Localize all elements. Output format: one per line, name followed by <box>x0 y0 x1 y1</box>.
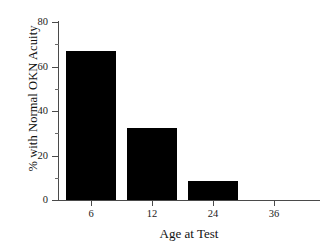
y-axis-tick-label: 0 <box>22 195 48 206</box>
x-axis-line <box>58 200 320 201</box>
y-axis-tick-major <box>52 156 59 157</box>
y-axis-tick-label: 20 <box>22 151 48 162</box>
x-axis-tick-label: 6 <box>71 209 111 220</box>
x-axis-tick <box>152 201 153 206</box>
y-axis-tick-major <box>52 200 59 201</box>
bar <box>66 51 116 200</box>
bar <box>127 128 177 200</box>
bar <box>188 181 238 200</box>
x-axis-tick <box>213 201 214 206</box>
x-axis-tick <box>274 201 275 206</box>
y-axis-tick-minor <box>55 133 59 134</box>
y-axis-tick-major <box>52 22 59 23</box>
y-axis-tick-minor <box>55 89 59 90</box>
x-axis-tick-label: 36 <box>254 209 294 220</box>
plot-area: % with Normal OKN Acuity 020406080612243… <box>0 0 330 251</box>
chart-figure: % with Normal OKN Acuity 020406080612243… <box>0 0 330 251</box>
y-axis-tick-major <box>52 111 59 112</box>
y-axis-tick-label: 60 <box>22 62 48 73</box>
x-axis-tick-label: 12 <box>132 209 172 220</box>
y-axis-tick-label: 40 <box>22 106 48 117</box>
y-axis-tick-minor <box>55 178 59 179</box>
y-axis-tick-label: 80 <box>22 17 48 28</box>
y-axis-tick-major <box>52 67 59 68</box>
x-axis-tick-label: 24 <box>193 209 233 220</box>
x-axis-tick <box>91 201 92 206</box>
y-axis-tick-minor <box>55 44 59 45</box>
x-axis-title: Age at Test <box>58 226 320 242</box>
y-axis-title: % with Normal OKN Acuity <box>22 0 44 251</box>
